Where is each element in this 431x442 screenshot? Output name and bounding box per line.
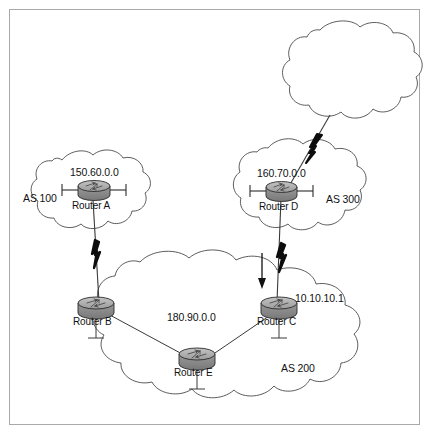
cloud-as300 [233,139,366,230]
as-label-300: AS 300 [326,193,360,205]
router-d-label: Router D [259,201,298,212]
router-a-label: Router A [72,200,110,211]
router-c-label: Router C [257,316,296,327]
diagram-vector-layer [0,0,431,442]
network-label-160: 160.70.0.0 [257,167,306,179]
network-label-150: 150.60.0.0 [70,166,119,178]
cloud-internet [283,21,423,118]
network-label-180: 180.90.0.0 [167,311,216,323]
as-label-100: AS 100 [23,192,57,204]
diagram-canvas: 150.60.0.0 AS 100 Router A 160.70.0.0 AS… [0,0,431,442]
address-label-10: 10.10.10.1 [295,292,344,304]
router-b-label: Router B [73,316,112,327]
as-label-200: AS 200 [281,362,315,374]
cloud-as200 [93,250,360,398]
router-e-label: Router E [174,367,213,378]
